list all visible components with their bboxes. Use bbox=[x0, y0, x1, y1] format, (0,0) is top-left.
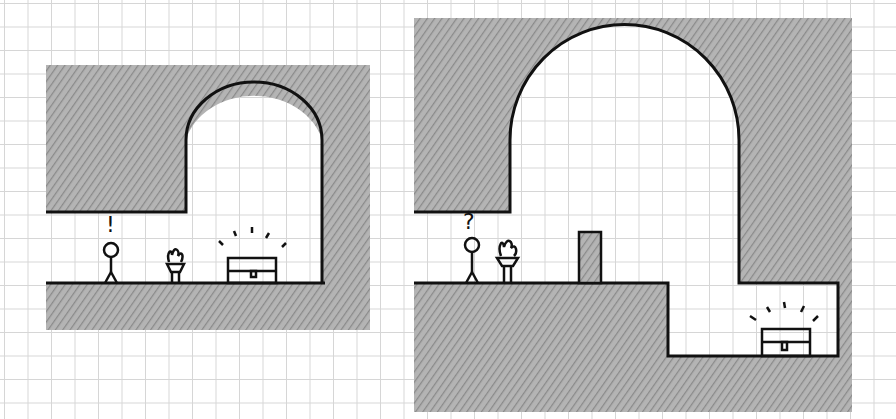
brazier-icon bbox=[497, 241, 518, 283]
treasure-chest-icon bbox=[219, 227, 286, 283]
sketch-canvas: ! ? bbox=[0, 0, 896, 419]
question-mark: ? bbox=[463, 209, 475, 234]
right-panel: ? bbox=[414, 18, 852, 412]
right-rock-mass bbox=[414, 18, 852, 412]
stick-figure-question bbox=[465, 238, 479, 283]
stone-pillar bbox=[579, 232, 601, 283]
left-panel: ! bbox=[46, 65, 370, 330]
treasure-chest-icon bbox=[750, 302, 818, 356]
exclamation-mark: ! bbox=[106, 212, 115, 237]
stick-figure-exclaim bbox=[104, 243, 118, 283]
brazier-icon bbox=[167, 249, 184, 283]
